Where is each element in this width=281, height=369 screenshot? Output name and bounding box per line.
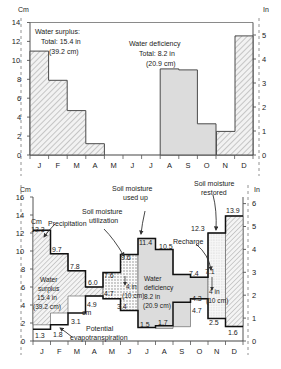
e-label-jul: 1.5 bbox=[140, 321, 150, 328]
top-month-J3: J bbox=[149, 161, 153, 170]
bottom-ytick-2: 2 bbox=[21, 319, 25, 328]
bottom-rtick-6: 6 bbox=[252, 199, 256, 208]
top-deficiency-bars bbox=[160, 69, 216, 155]
deficiency-text-l4: (20.9 cm) bbox=[143, 302, 171, 310]
top-ytick-0: 0 bbox=[17, 151, 21, 160]
top-deficiency-line2: Total: 8.2 in bbox=[139, 50, 175, 57]
bottom-month-O: O bbox=[196, 347, 202, 356]
top-left-axis-unit: Cm bbox=[18, 6, 29, 13]
top-rtick-4: 4 bbox=[262, 55, 266, 64]
bottom-month-N: N bbox=[214, 347, 219, 356]
bottom-ytick-10: 10 bbox=[16, 247, 24, 256]
recharge-region bbox=[208, 233, 226, 319]
utilization-line2: utilization bbox=[89, 217, 118, 224]
deficiency-text-l1: Water bbox=[144, 275, 162, 282]
surplus-text-l1: Water bbox=[40, 276, 58, 283]
bottom-ytick-8: 8 bbox=[21, 265, 25, 274]
top-surplus-line3: (39.2 cm) bbox=[49, 48, 79, 56]
e-label-aug: 1.7 bbox=[158, 319, 168, 326]
pet-line1: Potential bbox=[86, 325, 114, 332]
deficiency-text-l2: deficiency bbox=[144, 284, 174, 292]
bottom-month-labels: J F M A M J J A S O N D bbox=[40, 347, 238, 356]
pet-line2: evapotranspiration bbox=[70, 334, 128, 342]
top-month-labels: J F M A M J J A S O N D bbox=[37, 161, 247, 170]
bottom-rtick-5: 5 bbox=[252, 222, 256, 231]
e-label-apr: 4.9 bbox=[87, 301, 97, 308]
top-surplus-line2: Total: 15.4 in bbox=[41, 38, 81, 45]
top-rtick-1: 1 bbox=[262, 127, 266, 136]
top-month-S: S bbox=[186, 161, 191, 170]
bottom-month-J3: J bbox=[145, 347, 149, 356]
top-bar-deficiency bbox=[160, 69, 216, 155]
top-ytick-10: 10 bbox=[12, 56, 20, 65]
bottom-ytick-4: 4 bbox=[21, 301, 25, 310]
bottom-month-F: F bbox=[57, 347, 62, 356]
e-label-jan: 1.3 bbox=[35, 332, 45, 339]
e-label-dec: 1.6 bbox=[228, 329, 238, 336]
precipitation-annotation: Precipitation bbox=[48, 220, 87, 228]
bottom-rtick-4: 4 bbox=[252, 245, 256, 254]
util-amt-l1: 4 in bbox=[126, 283, 137, 290]
top-rtick-5: 5 bbox=[262, 31, 266, 40]
p-label-jun: 9.6 bbox=[121, 254, 131, 261]
e-label-may: 4.7 bbox=[104, 290, 114, 297]
p-label-feb: 9.7 bbox=[52, 246, 62, 253]
top-ytick-4: 4 bbox=[17, 113, 21, 122]
e-label-feb: 1.8 bbox=[53, 331, 63, 338]
p-label-aug: 10.5 bbox=[159, 243, 173, 250]
e-label-oct: 4.7 bbox=[192, 307, 202, 314]
bottom-month-J2: J bbox=[127, 347, 131, 356]
water-balance-figure: Cm 14 12 10 8 6 4 2 0 In 5 4 3 bbox=[0, 0, 281, 369]
restored-line2: restored bbox=[201, 189, 227, 196]
bottom-ytick-14: 14 bbox=[16, 211, 24, 220]
bottom-ytick-0: 0 bbox=[21, 337, 25, 346]
top-ytick-14: 14 bbox=[12, 18, 20, 27]
p-label-dec: 13.9 bbox=[226, 207, 240, 214]
bottom-x-ticks bbox=[33, 341, 243, 345]
top-month-M1: M bbox=[73, 161, 79, 170]
restored-leader bbox=[213, 195, 216, 230]
e-label-nov: 2.5 bbox=[209, 319, 219, 326]
p-label-mar: 7.8 bbox=[70, 263, 80, 270]
bottom-month-M2: M bbox=[109, 347, 115, 356]
top-bar-surplus-early bbox=[30, 51, 104, 155]
p-label-oct: 7.1 bbox=[205, 268, 215, 275]
top-rtick-0: 0 bbox=[262, 151, 266, 160]
top-ytick-8: 8 bbox=[17, 75, 21, 84]
bottom-month-M1: M bbox=[74, 347, 80, 356]
p-label-jan: 12.3 bbox=[31, 226, 45, 233]
used-up-leader bbox=[141, 211, 145, 234]
utilization-annotation: Soil moisture utilization bbox=[82, 208, 123, 224]
e-label-jun: 3.4 bbox=[117, 303, 127, 310]
used-up-line2: used up bbox=[123, 194, 148, 202]
top-deficiency-line3: (20.9 cm) bbox=[146, 60, 176, 68]
bottom-left-ticks: 16 14 12 10 8 6 4 2 0 bbox=[16, 193, 33, 346]
top-rtick-2: 2 bbox=[262, 103, 266, 112]
top-month-A2: A bbox=[167, 161, 172, 170]
top-month-F: F bbox=[56, 161, 61, 170]
top-month-J1: J bbox=[37, 161, 41, 170]
bottom-month-J1: J bbox=[40, 347, 44, 356]
restored-annotation: Soil moisture restored bbox=[194, 180, 235, 196]
top-ytick-2: 2 bbox=[17, 132, 21, 141]
p-label-may: 7.6 bbox=[104, 272, 114, 279]
p-label-jul: 11.4 bbox=[139, 239, 152, 246]
rech-amt-l1: 4 in bbox=[209, 288, 220, 295]
recharge-annotation: Recharge bbox=[173, 238, 203, 246]
surplus-text-l2: surplus bbox=[38, 285, 60, 293]
bottom-right-axis-unit: In bbox=[254, 186, 260, 193]
bottom-rtick-0: 0 bbox=[252, 337, 256, 346]
top-month-D: D bbox=[241, 161, 247, 170]
top-ytick-12: 12 bbox=[12, 37, 20, 46]
bottom-ytick-6: 6 bbox=[21, 283, 25, 292]
top-month-M2: M bbox=[111, 161, 117, 170]
bottom-month-S: S bbox=[179, 347, 184, 356]
deficiency-text-l3: 8.2 in bbox=[144, 293, 160, 300]
top-left-ticks: 14 12 10 8 6 4 2 0 bbox=[12, 18, 30, 160]
e-label-mar: 3.1 bbox=[71, 318, 81, 325]
top-month-J2: J bbox=[130, 161, 134, 170]
pet-annotation: Potential evapotranspiration bbox=[70, 325, 128, 342]
top-deficiency-callout: Water deficiency Total: 8.2 in (20.9 cm) bbox=[129, 40, 181, 68]
top-ytick-6: 6 bbox=[17, 94, 21, 103]
top-bar-surplus-late bbox=[216, 36, 253, 155]
